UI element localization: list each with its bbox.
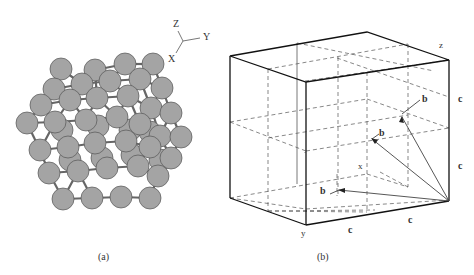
atom (106, 106, 128, 128)
atom (16, 112, 38, 134)
atom (117, 85, 139, 107)
axis-label-z-b: z (439, 40, 443, 50)
arrowheads (338, 116, 404, 193)
atom (57, 136, 79, 158)
atom (44, 111, 66, 133)
atom (147, 165, 169, 187)
caption-b: (b) (317, 251, 329, 262)
axis-label-y-b: y (301, 228, 306, 238)
edge-label-c-3: c (408, 214, 413, 225)
vectors (330, 100, 449, 201)
caption-a: (a) (98, 251, 109, 262)
atom (84, 132, 106, 154)
atom (52, 188, 74, 210)
atom (50, 58, 72, 80)
panel-b-cube (230, 32, 449, 225)
axis-triad-icon (176, 31, 200, 53)
vector-label-b-1: b (422, 93, 428, 104)
axis-label-x: X (168, 53, 176, 64)
edge-label-c-1: c (458, 93, 463, 104)
atom (96, 157, 118, 179)
atom (127, 155, 149, 177)
atom (139, 187, 161, 209)
atom (115, 130, 137, 152)
atom (160, 102, 182, 124)
atom (160, 147, 182, 169)
vector-label-b-2: b (379, 127, 385, 138)
atom (59, 89, 81, 111)
atom (75, 109, 97, 131)
atom (29, 139, 51, 161)
atom (139, 136, 161, 158)
atom (151, 77, 173, 99)
axis-label-z: Z (173, 18, 179, 29)
atom (81, 187, 103, 209)
figure-canvas: Z Y X (0, 0, 474, 275)
panel-a-cluster (16, 53, 192, 210)
axis-label-x-b: x (358, 161, 363, 171)
vector-label-b-3: b (320, 185, 326, 196)
atom (38, 162, 60, 184)
atom (110, 186, 132, 208)
edge-label-c-4: c (348, 224, 353, 235)
atom (67, 160, 89, 182)
cube-edges (230, 32, 449, 225)
edge-label-c-2: c (458, 160, 463, 171)
cube-dashed-grid (230, 43, 449, 212)
atom (86, 87, 108, 109)
axis-label-y: Y (203, 31, 210, 42)
atom (170, 126, 192, 148)
